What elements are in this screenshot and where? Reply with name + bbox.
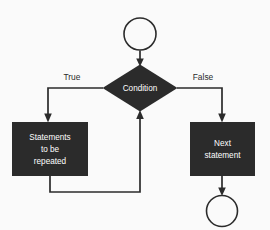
- true-branch-arrowhead: [44, 114, 52, 123]
- false-branch-line: [177, 88, 222, 114]
- node-next-statement: Next statement: [190, 122, 255, 176]
- flowchart-canvas: Condition Statements to be repeated Next…: [0, 0, 270, 230]
- loop-body-label-line-1: Statements: [29, 133, 70, 142]
- next-statement-label-line-2: statement: [205, 151, 242, 160]
- false-branch-arrowhead: [218, 114, 226, 123]
- edge-entry: [136, 51, 144, 67]
- loop-body-label-line-3: repeated: [34, 157, 67, 166]
- start-terminator-circle: [124, 18, 156, 50]
- node-start-terminator: [124, 18, 156, 50]
- node-end-terminator: [207, 196, 238, 227]
- false-branch-label: False: [193, 72, 214, 82]
- loop-body-label-line-2: to be: [41, 145, 60, 154]
- flowchart-svg: Condition Statements to be repeated Next…: [0, 0, 270, 230]
- next-statement-label-line-1: Next: [214, 139, 232, 148]
- node-condition: Condition: [103, 65, 178, 112]
- edge-false-branch: [177, 88, 226, 123]
- true-branch-label: True: [64, 72, 81, 82]
- edge-true-branch: [44, 88, 103, 123]
- edge-exit: [218, 176, 226, 196]
- next-statement-rect: [190, 122, 255, 176]
- condition-label: Condition: [123, 84, 158, 93]
- node-loop-body: Statements to be repeated: [12, 122, 88, 176]
- true-branch-line: [48, 88, 103, 114]
- end-terminator-circle: [207, 196, 238, 227]
